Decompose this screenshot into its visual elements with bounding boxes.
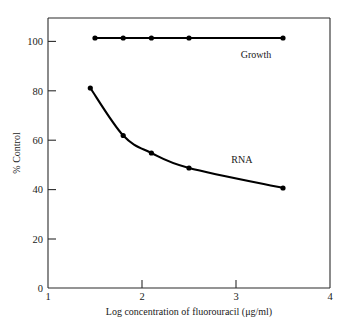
data-point-rna-0 [88,85,93,90]
data-point-rna-4 [280,185,285,190]
xtick-label-2: 2 [139,291,144,302]
data-point-rna-2 [149,150,154,155]
ytick-label-80: 80 [33,86,44,97]
xtick-label-1: 1 [45,291,50,302]
ytick-label-60: 60 [33,135,44,146]
data-point-growth-3 [186,35,191,40]
chart-figure: 100 80 60 40 20 0 1 2 3 4 Log concentrat… [0,0,349,321]
data-point-growth-2 [149,35,154,40]
data-point-growth-4 [280,35,285,40]
ytick-label-100: 100 [27,36,43,47]
data-point-growth-1 [121,35,126,40]
ytick-label-0: 0 [38,283,43,294]
series-label-rna: RNA [231,154,253,165]
chart-plot-area: 100 80 60 40 20 0 1 2 3 4 Log concentrat… [0,0,349,321]
y-axis-title: % Control [11,132,22,174]
data-point-rna-3 [186,165,191,170]
ytick-label-40: 40 [33,184,44,195]
data-point-rna-1 [121,133,126,138]
xtick-label-4: 4 [327,291,333,302]
data-point-growth-0 [92,35,97,40]
x-axis-title: Log concentration of fluorouracil (μg/ml… [106,306,272,318]
xtick-label-3: 3 [233,291,238,302]
data-curve-rna [90,88,283,188]
ytick-label-20: 20 [33,234,44,245]
series-label-growth: Growth [241,49,272,60]
